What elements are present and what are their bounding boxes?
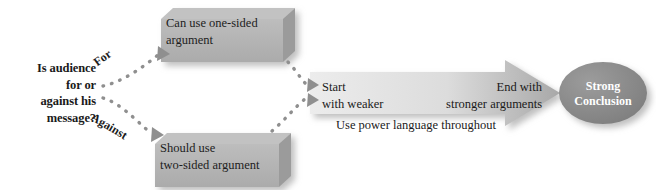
arrow-start-label: Start with weaker: [322, 79, 383, 113]
box-one-sided-label: Can use one-sided argument: [166, 15, 258, 49]
arrow-caption-label: Use power language throughout: [336, 118, 496, 133]
flow-diagram: Is audience for or against his message? …: [0, 0, 656, 190]
arrow-end-label: End with stronger arguments: [398, 79, 542, 113]
dotted-path-for: [103, 46, 170, 86]
box-two-sided-label: Should use two-sided argument: [160, 140, 259, 174]
question-text: Is audience for or against his message?: [0, 60, 96, 126]
conclusion-label: Strong Conclusion: [562, 79, 644, 109]
